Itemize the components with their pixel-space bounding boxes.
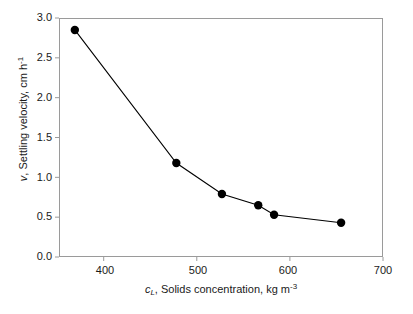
y-tick-label-2.5: 2.5 <box>28 52 52 63</box>
y-tick-label-0.0: 0.0 <box>28 251 52 262</box>
y-tick-label-3.0: 3.0 <box>28 12 52 23</box>
x-axis-text: , Solids concentration, kg m <box>155 283 290 295</box>
y-axis-text: , Settling velocity, cm h <box>17 64 29 176</box>
plot-frame <box>59 18 383 257</box>
y-axis-symbol: v <box>17 176 29 182</box>
y-axis-title: v, Settling velocity, cm h-1 <box>15 29 29 209</box>
y-axis-exponent: -1 <box>16 57 25 64</box>
y-tick-label-0.5: 0.5 <box>28 211 52 222</box>
x-tick-label-400: 400 <box>85 265 125 276</box>
x-axis-title: cL, Solids concentration, kg m-3 <box>59 281 383 299</box>
x-tick-label-700: 700 <box>363 265 403 276</box>
x-axis-exponent: -3 <box>290 282 297 291</box>
y-tick-label-2.0: 2.0 <box>28 92 52 103</box>
figure-container: 3.0 2.5 2.0 1.5 1.0 0.5 0.0 400 500 600 … <box>0 0 413 314</box>
x-tick-label-600: 600 <box>268 265 308 276</box>
y-axis-title-wrapper: v, Settling velocity, cm h-1 <box>0 0 26 280</box>
y-tick-label-1.0: 1.0 <box>28 172 52 183</box>
x-tick-label-500: 500 <box>178 265 218 276</box>
y-tick-label-1.5: 1.5 <box>28 132 52 143</box>
